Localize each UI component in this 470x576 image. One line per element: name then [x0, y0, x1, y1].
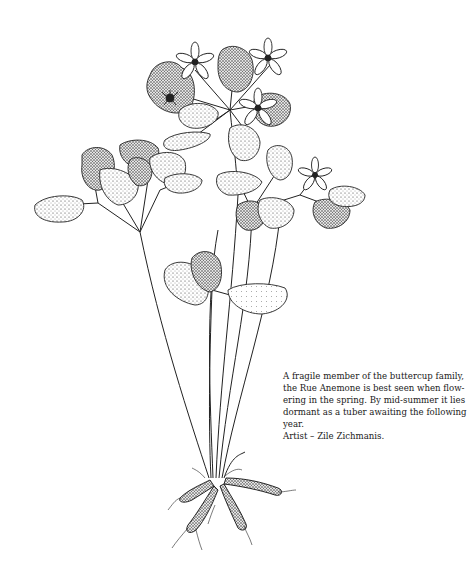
caption-line-2: the Rue Anemone is best seen when flow-	[283, 382, 468, 394]
artist-credit: Artist – Zile Zichmanis.	[283, 430, 468, 442]
caption: A fragile member of the buttercup family…	[283, 370, 468, 442]
rue-anemone-illustration	[0, 0, 470, 576]
caption-line-1: A fragile member of the buttercup family…	[283, 370, 468, 382]
caption-line-4: dormant as a tuber awaiting the followin…	[283, 406, 468, 418]
tubers-and-roots	[168, 468, 296, 550]
caption-line-3: ering in the spring. By mid-summer it li…	[283, 394, 468, 406]
caption-line-5: year.	[283, 418, 468, 430]
